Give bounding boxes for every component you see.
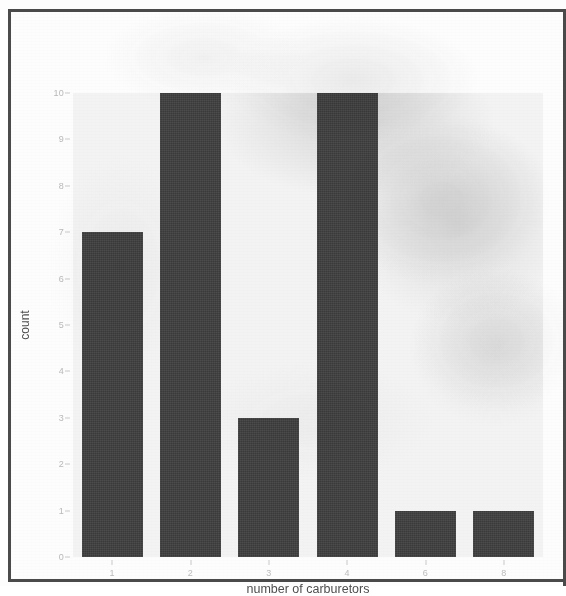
y-axis-tick-label: 7 <box>59 227 73 237</box>
bar <box>473 511 534 557</box>
y-axis-tick-label: 3 <box>59 413 73 423</box>
y-axis-tick-label: 0 <box>59 552 73 562</box>
x-axis-tick-label: 2 <box>188 568 193 578</box>
bar <box>395 511 456 557</box>
y-axis-tick-label: 9 <box>59 134 73 144</box>
x-axis-tick-mark <box>503 560 504 565</box>
x-axis-tick-mark <box>347 560 348 565</box>
bar <box>82 232 143 557</box>
x-axis-tick-mark <box>425 560 426 565</box>
y-axis-tick-label: 4 <box>59 366 73 376</box>
y-axis-tick-label: 10 <box>53 88 73 98</box>
x-axis-tick-mark <box>268 560 269 565</box>
x-axis-tick-mark <box>112 560 113 565</box>
x-axis-tick-label: 3 <box>266 568 271 578</box>
y-axis-tick-label: 1 <box>59 506 73 516</box>
x-axis-tick-mark <box>190 560 191 565</box>
bar <box>317 93 378 557</box>
y-axis-tick-label: 5 <box>59 320 73 330</box>
x-axis-tick-label: 8 <box>501 568 506 578</box>
y-axis-title: count <box>18 310 32 339</box>
x-axis-tick-label: 6 <box>423 568 428 578</box>
plot-panel: 012345678910123468 <box>73 93 543 557</box>
bar <box>160 93 221 557</box>
bar-chart: 012345678910123468 number of carburetors… <box>11 12 563 579</box>
y-axis-tick-label: 2 <box>59 459 73 469</box>
x-axis-title: number of carburetors <box>73 582 543 596</box>
x-axis-tick-label: 4 <box>345 568 350 578</box>
x-axis-tick-label: 1 <box>110 568 115 578</box>
y-axis-tick-label: 8 <box>59 181 73 191</box>
panel-scan-shading <box>73 93 543 557</box>
y-axis-tick-label: 6 <box>59 274 73 284</box>
bar <box>238 418 299 557</box>
